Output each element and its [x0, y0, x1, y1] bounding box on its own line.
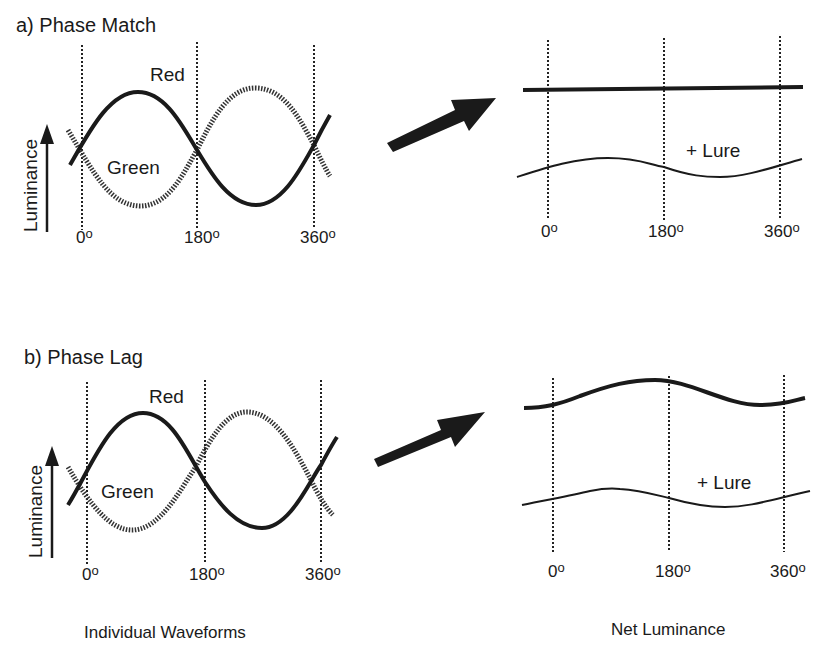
tick-0deg: 0o	[82, 565, 99, 585]
tick-360deg: 360o	[305, 565, 341, 585]
panel-a-individual-waveforms	[40, 42, 330, 232]
transform-arrow-icon	[374, 412, 485, 467]
red-waveform	[68, 413, 337, 528]
tick-0deg: 0o	[76, 228, 93, 248]
panel-a-title: a) Phase Match	[16, 14, 156, 37]
red-label: Red	[149, 386, 184, 408]
net-luminance-line	[523, 87, 803, 90]
figure-canvas	[0, 0, 837, 663]
luminance-arrow-icon	[40, 124, 54, 144]
panel-b-title: b) Phase Lag	[24, 346, 143, 369]
lure-waveform	[522, 488, 810, 507]
panel-b-individual-waveforms	[45, 380, 337, 565]
caption-net-luminance: Net Luminance	[611, 620, 725, 640]
tick-0deg: 0o	[541, 222, 558, 242]
tick-360deg: 360o	[300, 228, 336, 248]
luminance-arrow-icon	[45, 446, 59, 466]
red-label: Red	[150, 64, 185, 86]
tick-360deg: 360o	[764, 222, 800, 242]
panel-b-net-luminance	[522, 375, 810, 552]
green-label: Green	[101, 481, 154, 503]
tick-180deg: 180o	[655, 562, 691, 582]
lure-waveform	[517, 158, 802, 177]
luminance-axis-label: Luminance	[25, 465, 47, 558]
tick-180deg: 180o	[648, 222, 684, 242]
lure-label: + Lure	[697, 472, 751, 494]
luminance-axis-label: Luminance	[20, 139, 42, 232]
caption-individual-waveforms: Individual Waveforms	[84, 623, 246, 643]
tick-180deg: 180o	[184, 228, 220, 248]
lure-label: + Lure	[686, 140, 740, 162]
tick-360deg: 360o	[770, 562, 806, 582]
panel-a-net-luminance	[517, 36, 803, 220]
net-luminance-waveform	[524, 380, 805, 408]
tick-180deg: 180o	[189, 565, 225, 585]
transform-arrow-icon	[387, 98, 496, 152]
green-label: Green	[107, 157, 160, 179]
tick-0deg: 0o	[548, 562, 565, 582]
